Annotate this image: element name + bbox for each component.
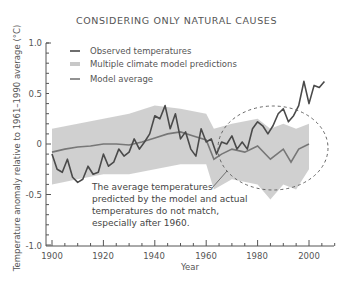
- legend: Observed temperatures Multiple climate m…: [70, 46, 237, 84]
- legend-average-label: Model average: [90, 74, 153, 84]
- chart-canvas: 1.0 0.5 0 -0.5 -1.0 1900 1920 1940 1960 …: [0, 0, 353, 292]
- x-tick-label: 1960: [195, 251, 217, 261]
- legend-band-swatch: [70, 62, 80, 66]
- annotation-line: The average temperatures: [91, 182, 213, 192]
- y-tick-label: 0.5: [28, 89, 42, 99]
- x-tick-label: 1940: [143, 251, 165, 261]
- y-tick-label: -0.5: [25, 190, 42, 200]
- x-axis-label: Year: [180, 262, 200, 272]
- annotation-line: temperatures do not match,: [92, 206, 219, 216]
- legend-observed-label: Observed temperatures: [90, 46, 192, 56]
- annotation-line: predicted by the model and actual: [92, 194, 247, 204]
- x-tick-label: 1920: [92, 251, 114, 261]
- x-tick-label: 1900: [41, 251, 63, 261]
- y-axis-label: Temperature anomaly relative to 1961–199…: [12, 25, 22, 272]
- annotation-line: especially after 1960.: [92, 218, 190, 228]
- x-tick-label: 1980: [246, 251, 268, 261]
- y-tick-label: -1.0: [25, 241, 42, 251]
- x-tick-label: 2000: [298, 251, 320, 261]
- legend-band-label: Multiple climate model predictions: [90, 59, 237, 69]
- y-tick-label: 1.0: [28, 38, 42, 48]
- y-tick-label: 0: [37, 139, 42, 149]
